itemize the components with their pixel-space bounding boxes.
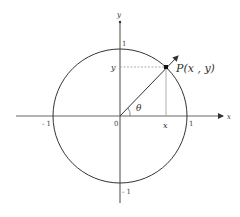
x-axis-label: x [227,113,231,121]
x-projection-label: x [163,121,168,130]
angle-label: θ [136,103,142,113]
unit-circle-diagram: y x 0 1 - 1 1 - 1 P(x , y) y x θ [0,0,240,217]
y-axis-label: y [116,11,122,19]
angle-arc [128,108,130,116]
radius-ray [120,56,178,116]
point-label: P(x , y) [175,62,215,75]
y-projection-label: y [110,63,116,72]
origin-label: 0 [114,120,118,128]
tick-x-neg: - 1 [42,120,51,128]
y-axis-tip [119,21,121,23]
point-p [164,65,168,69]
tick-y-neg: - 1 [122,188,131,196]
tick-x-pos: 1 [189,120,193,128]
tick-y-pos: 1 [122,40,126,48]
